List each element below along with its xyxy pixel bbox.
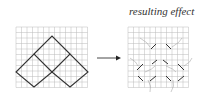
arrowhead-icon xyxy=(116,56,121,61)
right-grid-warped xyxy=(128,27,192,92)
right-edge-segments xyxy=(137,44,184,81)
diagram: resulting effect xyxy=(0,0,211,99)
diagram-canvas xyxy=(0,0,211,99)
arrow xyxy=(97,56,121,61)
